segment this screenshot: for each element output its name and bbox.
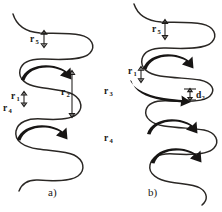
flow-arrow-lower-a [17,125,68,140]
label-r5-a: r 5 [30,34,40,45]
svg-text:4: 4 [110,137,114,144]
svg-text:r: r [104,133,109,143]
meander-figure: r 5 r 1 r 2 r 4 a) [0,0,222,212]
meander-curve-b [134,4,217,205]
label-r1-a: r 1 [11,91,20,102]
svg-text:5: 5 [36,38,40,45]
caption-a: a) [48,186,57,199]
label-r4-b: r 4 [104,133,114,144]
dim-r5-a [41,30,47,47]
svg-text:r: r [30,34,35,44]
flow-arrow-middle-b [130,80,191,107]
svg-text:r: r [104,86,109,96]
svg-text:r: r [11,91,16,101]
flow-arrow-bottom-b [151,148,202,163]
svg-text:3: 3 [110,90,114,97]
svg-text:1: 1 [17,95,20,102]
svg-text:2: 2 [202,94,206,101]
svg-text:1: 1 [134,70,137,77]
svg-text:4: 4 [9,107,13,114]
svg-text:5: 5 [158,28,162,35]
panel-a: r 5 r 1 r 2 r 4 a) [3,14,93,199]
label-r4-a: r 4 [3,103,13,114]
label-r1-b: r 1 [128,66,137,77]
dim-r5-b [162,19,167,39]
figure-root: r 5 r 1 r 2 r 4 a) [0,0,222,212]
label-r3-b: r 3 [104,86,114,97]
panel-b: r 5 r 1 r 3 d 2 r 4 b) [104,4,217,205]
caption-b: b) [148,186,158,199]
svg-text:r: r [152,24,157,34]
svg-text:r: r [128,66,133,76]
label-d2-b: d 2 [196,90,206,101]
flow-arrow-upper-b [143,54,194,69]
label-r2-a: r 2 [61,87,71,98]
svg-text:r: r [3,103,8,113]
flow-arrow-upper-a [21,65,72,80]
dim-r1-a [21,91,26,106]
dim-r1-b [138,66,143,82]
label-r5-b: r 5 [152,24,162,35]
